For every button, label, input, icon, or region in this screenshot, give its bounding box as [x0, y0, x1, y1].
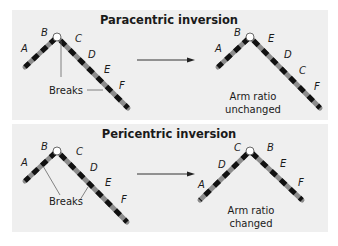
- result-line-1: Arm ratio: [228, 205, 275, 216]
- label-A: A: [214, 43, 222, 54]
- label-E: E: [280, 158, 287, 169]
- centromere-icon: [53, 33, 61, 41]
- breaks-label: Breaks: [49, 196, 83, 207]
- label-E: E: [105, 177, 112, 188]
- label-D: D: [90, 162, 98, 173]
- label-B: B: [41, 27, 48, 38]
- label-C: C: [75, 33, 82, 44]
- label-C: C: [76, 146, 83, 157]
- chromosome-original-paracentric: [25, 33, 128, 108]
- result-line-1: Arm ratio: [230, 91, 277, 102]
- result-line-2: changed: [229, 218, 272, 229]
- chromosome-original-pericentric: [25, 147, 127, 222]
- centromere-icon: [53, 147, 61, 155]
- arrow-icon: [137, 172, 195, 177]
- label-F: F: [298, 177, 304, 188]
- label-A: A: [20, 43, 28, 54]
- label-D: D: [218, 159, 226, 170]
- label-E: E: [268, 33, 275, 44]
- chromosome-pericentric-result: [200, 147, 302, 200]
- label-D: D: [88, 49, 96, 60]
- label-B: B: [41, 141, 48, 152]
- label-A: A: [197, 179, 205, 190]
- breaks-label: Breaks: [49, 85, 83, 96]
- label-A: A: [20, 157, 28, 168]
- label-C: C: [234, 142, 241, 153]
- label-F: F: [121, 194, 127, 205]
- label-C: C: [299, 65, 306, 76]
- result-line-2: unchanged: [225, 104, 281, 115]
- label-F: F: [314, 81, 320, 92]
- label-E: E: [104, 64, 111, 75]
- label-B: B: [234, 27, 241, 38]
- centromere-icon: [246, 147, 254, 155]
- break-pointer: [43, 166, 60, 195]
- inversion-diagram: A B C D E F Breaks A B E D C F Arm ratio…: [0, 0, 338, 246]
- label-D: D: [284, 49, 292, 60]
- arrow-icon: [137, 58, 195, 63]
- centromere-icon: [246, 33, 254, 41]
- label-B: B: [267, 142, 274, 153]
- label-F: F: [119, 80, 125, 91]
